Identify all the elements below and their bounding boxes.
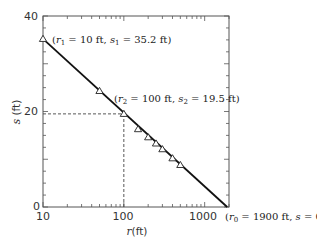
fitted-line	[43, 39, 227, 207]
annotation-r2: (r2 = 100 ft, s2 = 19.5 ft)	[114, 93, 240, 106]
x-tick-100: 100	[113, 210, 134, 223]
x-tick-1000: 1000	[189, 210, 217, 223]
x-axis-label: r(ft)	[127, 225, 148, 237]
y-tick-40: 40	[24, 10, 38, 23]
drawdown-chart: 40 20 0 10 100 1000 r(ft) s (ft) (r1 = 1…	[0, 0, 317, 245]
annotation-r1: (r1 = 10 ft, s1 = 35.2 ft)	[52, 34, 171, 47]
data-point-triangle	[39, 35, 46, 41]
x-tick-10: 10	[36, 210, 50, 223]
y-tick-20: 20	[24, 105, 38, 118]
annotation-r0: (r0 = 1900 ft, s = 0)	[225, 211, 317, 224]
y-axis-label: s (ft)	[10, 100, 22, 125]
reference-lines	[43, 114, 124, 207]
